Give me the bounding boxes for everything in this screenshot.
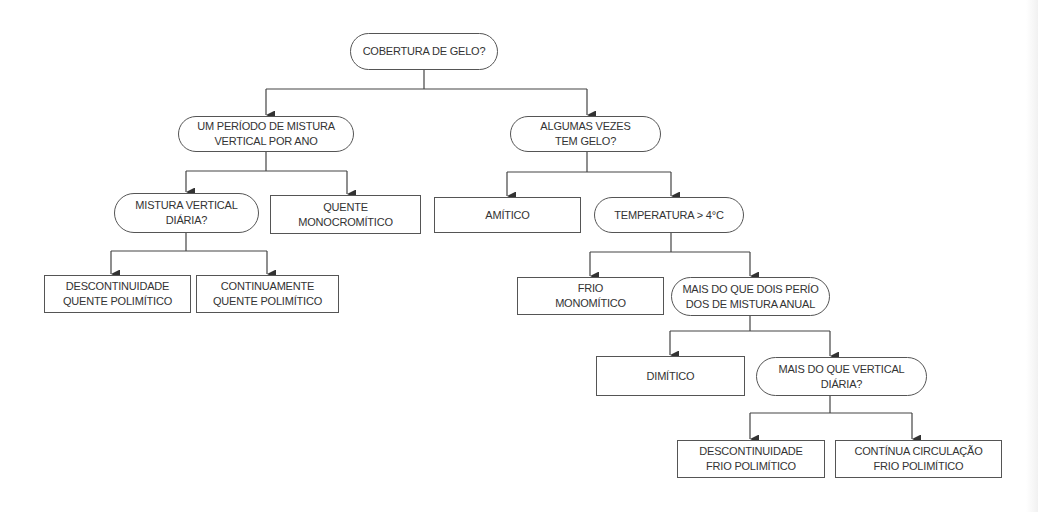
- node-continuous-warm-polymictic: Continuamente quente polimítico: [196, 275, 339, 313]
- node-text: Contínua circulação: [854, 444, 982, 459]
- node-text: Amítico: [485, 208, 529, 223]
- node-text: Descontinuidade: [63, 279, 172, 294]
- node-text: Frio polimítico: [854, 459, 982, 474]
- node-text: Frio: [555, 281, 626, 296]
- node-dimictic: Dimítico: [596, 356, 745, 396]
- node-more-than-two-periods: Mais do que dois perío dos de mistura an…: [671, 277, 830, 316]
- node-text: Dimítico: [647, 369, 695, 384]
- node-cold-monomictic: Frio monomítico: [517, 277, 664, 315]
- node-temperature: Temperatura > 4°C: [594, 197, 744, 233]
- node-text: tem gelo?: [540, 134, 630, 149]
- node-warm-monomictic: Quente monocromítico: [270, 195, 421, 234]
- node-text: monocromítico: [298, 215, 393, 230]
- node-text: Frio polimítico: [699, 459, 802, 474]
- node-text: Um período de mistura: [197, 119, 335, 134]
- node-text: diária?: [779, 377, 905, 392]
- node-text: quente polimítico: [63, 294, 172, 309]
- node-text: Mistura vertical: [135, 198, 237, 213]
- node-text: Mais do que vertical: [779, 362, 905, 377]
- node-text: diária?: [135, 213, 237, 228]
- node-root-ice-cover: Cobertura de gelo?: [350, 33, 498, 70]
- node-discontinuous-warm-polymictic: Descontinuidade quente polimítico: [44, 275, 191, 313]
- node-discontinuous-cold-polymictic: Descontinuidade Frio polimítico: [677, 440, 825, 478]
- node-amictic: Amítico: [434, 197, 581, 233]
- connector-lines: [0, 0, 1038, 512]
- node-text: Temperatura > 4°C: [614, 208, 723, 223]
- node-text: Mais do que dois perío: [682, 282, 818, 297]
- node-text: quente polimítico: [213, 294, 322, 309]
- node-text: Continuamente: [213, 279, 322, 294]
- node-continuous-cold-polymictic: Contínua circulação Frio polimítico: [835, 440, 1002, 478]
- node-text: monomítico: [555, 296, 626, 311]
- node-text: Cobertura de gelo?: [363, 44, 486, 59]
- node-text: vertical por ano: [197, 134, 335, 149]
- node-sometimes-ice: Algumas vezes tem gelo?: [510, 116, 661, 152]
- node-text: Algumas vezes: [540, 119, 630, 134]
- node-more-than-daily-vertical: Mais do que vertical diária?: [756, 357, 927, 396]
- node-text: dos de mistura anual: [682, 297, 818, 312]
- node-text: Descontinuidade: [699, 444, 802, 459]
- node-text: Quente: [298, 200, 393, 215]
- node-daily-vertical-mixing: Mistura vertical diária?: [114, 193, 259, 233]
- node-one-mixing-period: Um período de mistura vertical por ano: [178, 116, 354, 152]
